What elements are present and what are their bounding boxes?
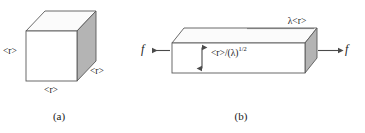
left-force-label: f <box>141 42 146 56</box>
panel-a-cube: <r> <r> <r> (a) <box>3 11 104 123</box>
panel-b-bar: λ<r> <r>/(λ)1/2 f f (b) <box>141 16 350 122</box>
bar-height-label-base: <r>/(λ) <box>211 48 238 59</box>
cube-right-label: <r> <box>90 66 104 76</box>
figure-container: <r> <r> <r> (a) λ<r> <r>/(λ)1/ <box>0 0 365 133</box>
bar-top-face <box>172 28 317 43</box>
bar-height-label-exponent: 1/2 <box>238 46 246 53</box>
bar-top-label: λ<r> <box>288 16 307 26</box>
physics-diagram: <r> <r> <r> (a) λ<r> <r>/(λ)1/ <box>0 0 365 133</box>
right-force-label: f <box>345 42 350 56</box>
cube-left-label: <r> <box>3 46 17 56</box>
cube-bottom-label: <r> <box>44 85 58 95</box>
panel-a-caption: (a) <box>53 110 66 123</box>
panel-b-caption: (b) <box>235 110 248 123</box>
cube-front-face <box>26 31 77 81</box>
